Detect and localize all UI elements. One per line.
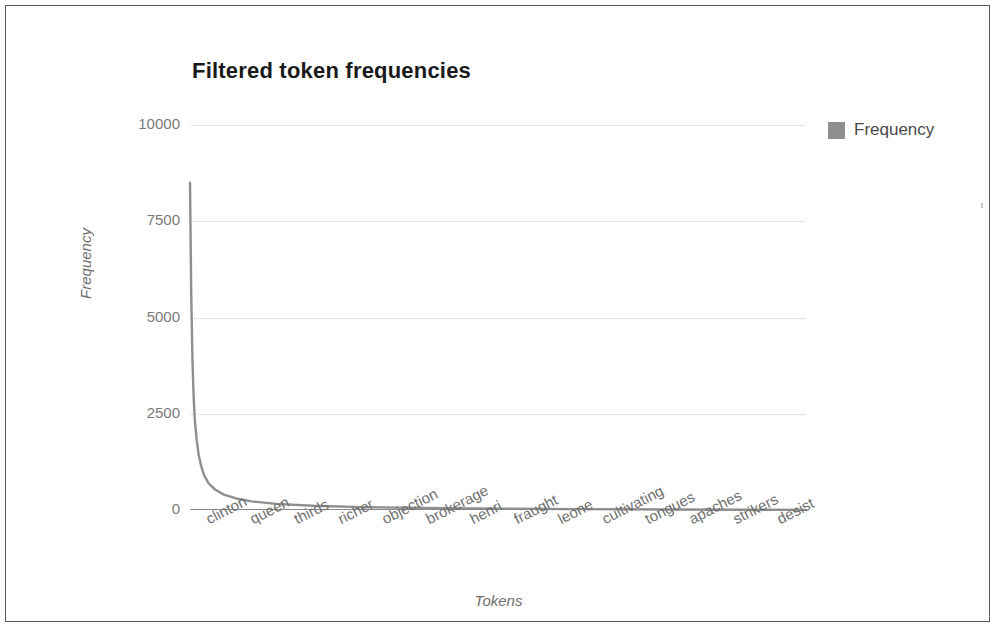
- chart-title: Filtered token frequencies: [192, 58, 471, 84]
- chart-legend: Frequency: [828, 120, 934, 140]
- y-axis-tick-label: 10000: [110, 115, 180, 132]
- y-axis-title: Frequency: [77, 199, 94, 329]
- scan-artifact: [981, 203, 983, 208]
- plot-area: [190, 125, 805, 510]
- x-axis-tick-labels: clintonqueenthirdsricherobjectionbrokera…: [190, 512, 890, 582]
- y-axis-tick-label: 2500: [110, 404, 180, 421]
- frequency-curve: [190, 125, 805, 510]
- y-axis-tick-label: 5000: [110, 308, 180, 325]
- chart-page: Filtered token frequencies Frequency 100…: [0, 0, 997, 635]
- y-axis-tick-labels: 100007500500025000: [108, 125, 180, 510]
- legend-label-frequency: Frequency: [854, 120, 934, 140]
- y-axis-tick-label: 7500: [110, 211, 180, 228]
- x-axis-title: Tokens: [0, 592, 997, 609]
- y-axis-tick-label: 0: [110, 500, 180, 517]
- chart-canvas: Filtered token frequencies Frequency 100…: [0, 0, 997, 635]
- legend-swatch-frequency: [828, 122, 845, 139]
